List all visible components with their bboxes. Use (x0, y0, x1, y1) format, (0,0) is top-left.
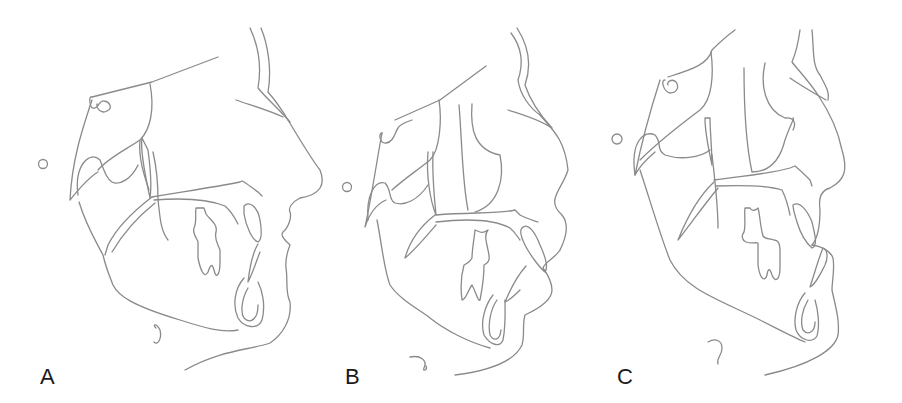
symphysis (483, 295, 506, 345)
panel-label-b: B (345, 366, 360, 388)
ear-rod-circle (612, 134, 622, 144)
cephalometric-tracings-figure (0, 0, 902, 403)
pterygomaxillary-fissure (705, 118, 712, 165)
tracing-panel-a (39, 28, 323, 370)
nasal-bone (508, 28, 552, 128)
nasal-bone (236, 28, 288, 120)
clivus (635, 80, 660, 175)
ramus-anterior (105, 197, 155, 255)
ear-rod-circle (343, 183, 352, 192)
hyoid-bone (410, 357, 426, 371)
soft-tissue-profile (185, 120, 322, 370)
lower-incisor (505, 266, 526, 302)
cranial-base-line (92, 57, 218, 97)
maxilla-curve (472, 104, 502, 212)
ear-rod-circle (39, 160, 48, 169)
sella-turcica (90, 97, 111, 112)
sella-turcica (380, 120, 412, 143)
nasal-bone (790, 30, 828, 100)
lower-incisor (810, 248, 827, 287)
tracing-panel-b (343, 28, 569, 375)
frontal-profile (792, 30, 845, 245)
upper-incisor (521, 226, 547, 272)
upper-incisor (244, 204, 261, 242)
symphysis (795, 293, 818, 340)
ramus-anterior (678, 182, 718, 240)
condyle (368, 183, 428, 220)
orbit (640, 52, 712, 160)
palatal-plane (714, 166, 812, 186)
lower-incisor (248, 244, 260, 282)
pterygoid-vertical (459, 105, 468, 210)
maxilla-curve (763, 63, 794, 130)
ramus-posterior (79, 202, 238, 331)
ramus-posterior (377, 220, 490, 348)
soft-tissue-profile (455, 250, 560, 375)
sella-turcica (663, 80, 678, 93)
symphysis (235, 278, 264, 327)
hyoid-bone (154, 325, 161, 343)
condyle (77, 157, 138, 195)
tracing-panel-c (612, 30, 845, 375)
maxilla-vertical (744, 68, 793, 172)
soft-tissue-profile (765, 245, 838, 375)
palate-lower (436, 220, 520, 240)
ramus-anterior (405, 215, 436, 258)
clivus (70, 100, 98, 200)
molar (194, 208, 220, 275)
molar (461, 230, 489, 300)
cranial-base-line (668, 30, 735, 77)
hyoid-bone (708, 340, 722, 364)
panel-label-a: A (40, 366, 55, 388)
upper-incisor (793, 204, 815, 248)
molar (742, 208, 780, 279)
palatal-plane (152, 181, 262, 197)
frontal-profile (511, 33, 568, 250)
panel-label-c: C (617, 366, 633, 388)
